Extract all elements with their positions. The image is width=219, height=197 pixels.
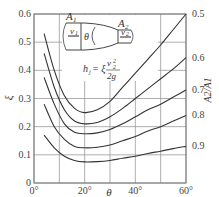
y-tick-label: 0.4 — [19, 64, 32, 75]
inset-label: v — [121, 27, 125, 37]
y-axis-label: ξ — [2, 95, 15, 100]
y-axis-ticks: 00.10.20.30.40.50.6 — [19, 8, 32, 188]
x-axis-label: θ — [106, 186, 112, 197]
x-tick-label: 40° — [128, 185, 142, 196]
x-tick-label: 0° — [30, 185, 39, 196]
y-tick-label: 0.6 — [19, 8, 32, 19]
inset-label: 1 — [73, 16, 77, 24]
inset-label: 1 — [75, 30, 78, 36]
inset-label: v — [70, 26, 74, 36]
inset-label: j — [88, 69, 91, 75]
x-tick-label: 20° — [78, 185, 92, 196]
inset-label: v — [107, 58, 111, 68]
inset-label: 2 — [113, 64, 116, 70]
inset-label: 2g — [107, 71, 117, 81]
inset-label: h — [83, 63, 88, 74]
y-tick-label: 0.1 — [19, 149, 32, 160]
inset-label: 2 — [126, 31, 129, 37]
inset-label: 2 — [125, 23, 129, 31]
y-tick-label: 0.5 — [19, 36, 32, 47]
curve-ratio-0.9 — [44, 135, 186, 162]
ratio-label: 0.9 — [192, 140, 205, 151]
ratio-label: 0.5 — [192, 8, 205, 19]
ratio-label: 0.6 — [192, 52, 205, 63]
y-tick-label: 0.2 — [19, 121, 32, 132]
inset-label: = ξ — [92, 63, 106, 75]
ratio-label: 0.8 — [192, 109, 205, 120]
y-tick-label: 0.3 — [19, 93, 32, 104]
y2-axis-label: A2/A1 — [202, 78, 213, 104]
diffuser-inset: A1A2v1v2θhj= ξv222g — [62, 10, 158, 81]
inset-label: A — [65, 10, 73, 22]
loss-coefficient-chart: A1A2v1v2θhj= ξv222g 00.10.20.30.40.50.6 … — [0, 0, 219, 197]
inset-label: θ — [84, 31, 89, 42]
x-tick-label: 60° — [179, 185, 193, 196]
